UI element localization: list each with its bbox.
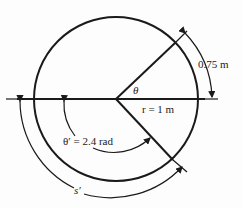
- s-prime-arrow-2: [84, 167, 182, 198]
- theta-label: θ: [133, 84, 139, 96]
- arc-length-diagram: θ r = 1 m 0.75 m θ′ = 2.4 rad s′: [0, 0, 242, 208]
- tick-lower: [173, 160, 187, 172]
- arc-length-label: 0.75 m: [198, 58, 229, 70]
- tick-upper: [175, 31, 187, 43]
- theta-prime-label: θ′ = 2.4 rad: [63, 135, 113, 147]
- radius-theta: [116, 43, 175, 99]
- s-prime-label: s′: [74, 184, 81, 196]
- diagram-canvas: θ r = 1 m 0.75 m θ′ = 2.4 rad s′: [0, 0, 242, 208]
- radius-label: r = 1 m: [142, 103, 175, 115]
- theta-prime-arrow: [64, 101, 75, 136]
